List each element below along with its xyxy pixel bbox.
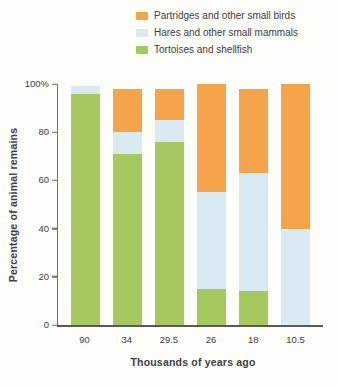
stacked-bar (239, 84, 268, 325)
bar-segment (155, 120, 184, 142)
plot-area: 020406080100% (57, 84, 323, 327)
x-tick-label: 10.5 (286, 334, 305, 345)
x-tick-slot: 90 (70, 334, 99, 345)
x-tick-label: 29.5 (160, 334, 179, 345)
bar-segment (155, 89, 184, 120)
legend-label: Partridges and other small birds (154, 10, 295, 22)
y-axis-title: Percentage of animal remains (7, 128, 19, 282)
bars-container (58, 84, 323, 325)
y-tick-label: 20 (9, 272, 49, 282)
x-tick-label: 26 (206, 334, 217, 345)
legend-item: Tortoises and shellfish (136, 44, 298, 56)
stacked-bar (113, 84, 142, 325)
bar-segment (197, 192, 226, 288)
y-tick-mark (52, 228, 57, 230)
x-axis-title: Thousands of years ago (130, 356, 255, 368)
legend-label: Hares and other small mammals (154, 27, 298, 39)
bar-segment (113, 154, 142, 325)
y-tick-mark (52, 324, 57, 326)
x-tick-slot: 26 (197, 334, 226, 345)
y-tick-label: 0 (9, 320, 49, 330)
y-tick-mark (52, 83, 57, 85)
bar-segment (197, 84, 226, 192)
y-tick-label: 40 (9, 224, 49, 234)
y-tick-mark (52, 180, 57, 182)
legend: Partridges and other small birdsHares an… (136, 10, 298, 56)
bar-segment (197, 289, 226, 325)
y-tick-label: 60 (9, 175, 49, 185)
x-tick-label: 34 (121, 334, 132, 345)
stacked-bar (155, 84, 184, 325)
bar-segment (113, 89, 142, 132)
legend-swatch (136, 29, 148, 37)
x-tick-slot: 34 (112, 334, 141, 345)
x-tick-slot: 18 (239, 334, 268, 345)
y-tick-mark (52, 276, 57, 278)
x-tick-labels: 903429.5261810.5 (57, 334, 323, 345)
bar-segment (281, 84, 310, 229)
y-tick-mark (52, 131, 57, 133)
bar-segment (239, 291, 268, 325)
bar-segment (281, 229, 310, 325)
y-tick-label: 100% (9, 79, 49, 89)
legend-swatch (136, 12, 148, 20)
x-tick-slot: 10.5 (281, 334, 310, 345)
legend-item: Partridges and other small birds (136, 10, 298, 22)
bar-segment (155, 142, 184, 325)
stacked-bar-chart-figure: Partridges and other small birdsHares an… (0, 0, 338, 387)
legend-item: Hares and other small mammals (136, 27, 298, 39)
stacked-bar (197, 84, 226, 325)
y-tick-label: 80 (9, 127, 49, 137)
bar-segment (71, 94, 100, 325)
bar-segment (239, 89, 268, 173)
x-tick-label: 18 (248, 334, 259, 345)
legend-swatch (136, 46, 148, 54)
legend-label: Tortoises and shellfish (154, 44, 252, 56)
bar-segment (239, 173, 268, 291)
x-tick-slot: 29.5 (154, 334, 183, 345)
stacked-bar (71, 84, 100, 325)
bar-segment (71, 86, 100, 93)
bar-segment (113, 132, 142, 154)
x-tick-label: 90 (79, 334, 90, 345)
stacked-bar (281, 84, 310, 325)
